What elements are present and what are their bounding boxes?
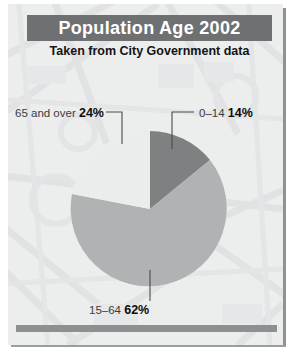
pie-chart: 65 and over 24% 0–14 14% 15–64 62% [8,4,283,345]
infographic-root: Population Age 2002 Taken from City Gove… [0,0,293,351]
panel-shadow-bottom [11,345,286,347]
callout-65-and-over: 65 and over 24% [15,107,104,120]
callout-15-64: 15–64 62% [89,304,149,317]
callout-65-and-over-label: 65 and over [15,107,79,119]
panel-shadow-right [283,8,286,347]
footer-rule [16,325,277,332]
callout-0-14: 0–14 14% [199,107,253,120]
callout-0-14-label: 0–14 [199,107,228,119]
pie-svg [8,4,283,345]
callout-0-14-value: 14% [228,106,253,120]
callout-15-64-value: 62% [124,303,149,317]
infographic-panel: Population Age 2002 Taken from City Gove… [8,4,283,345]
callout-65-and-over-value: 24% [79,106,104,120]
callout-15-64-label: 15–64 [89,304,124,316]
